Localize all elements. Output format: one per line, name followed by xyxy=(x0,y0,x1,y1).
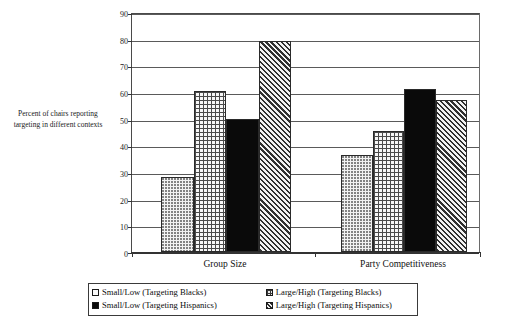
y-tick-label: 0 xyxy=(124,250,128,259)
legend-label: Large/High (Targeting Blacks) xyxy=(276,286,382,299)
legend: Small/Low (Targeting Blacks) Large/High … xyxy=(88,283,418,316)
y-tick-label: 10 xyxy=(120,223,128,232)
y-tick-label: 30 xyxy=(120,170,128,179)
y-tick-mark xyxy=(128,147,132,148)
y-tick-mark xyxy=(128,14,132,15)
legend-item-large-high-blacks[interactable]: Large/High (Targeting Blacks) xyxy=(266,286,414,299)
legend-item-small-low-hispanics[interactable]: Small/Low (Targeting Hispanics) xyxy=(92,299,266,312)
y-tick-label: 40 xyxy=(120,143,128,152)
bar-1-1 xyxy=(161,177,194,252)
y-tick-mark xyxy=(128,94,132,95)
gridline-0 xyxy=(132,253,479,254)
x-tick-mark-1 xyxy=(315,252,316,257)
legend-item-small-low-blacks[interactable]: Small/Low (Targeting Blacks) xyxy=(92,286,266,299)
gridline-70 xyxy=(132,67,479,68)
legend-label: Small/Low (Targeting Blacks) xyxy=(102,286,206,299)
x-axis-line xyxy=(131,252,481,253)
legend-item-large-high-hispanics[interactable]: Large/High (Targeting Hispanics) xyxy=(266,299,414,312)
bar-2-1 xyxy=(341,155,373,252)
legend-label: Small/Low (Targeting Hispanics) xyxy=(102,299,217,312)
bar-1-3 xyxy=(226,119,259,252)
bar-2-4 xyxy=(436,100,468,252)
bar-2-2 xyxy=(373,131,405,252)
x-category-label-1: Group Size xyxy=(203,259,246,269)
legend-swatch-solid-icon xyxy=(92,302,99,309)
y-tick-label: 90 xyxy=(120,10,128,19)
y-tick-mark xyxy=(128,174,132,175)
y-tick-mark xyxy=(128,41,132,42)
legend-label: Large/High (Targeting Hispanics) xyxy=(276,299,392,312)
gridline-90 xyxy=(132,14,479,15)
legend-swatch-diagonal-icon xyxy=(266,302,273,309)
plot-inner: 0102030405060708090 xyxy=(132,14,479,252)
legend-swatch-grid-icon xyxy=(266,289,273,296)
x-category-label-2: Party Competitiveness xyxy=(360,259,446,269)
y-tick-mark xyxy=(128,227,132,228)
y-tick-label: 70 xyxy=(120,63,128,72)
gridline-80 xyxy=(132,41,479,42)
y-axis-title: Percent of chairs reporting targeting in… xyxy=(6,108,110,130)
plot-area: 0102030405060708090 xyxy=(131,13,480,253)
y-tick-mark xyxy=(128,121,132,122)
y-tick-label: 50 xyxy=(120,116,128,125)
legend-row: Small/Low (Targeting Blacks) Large/High … xyxy=(92,286,414,299)
y-tick-mark xyxy=(128,67,132,68)
y-tick-label: 60 xyxy=(120,90,128,99)
bar-1-4 xyxy=(259,41,292,252)
legend-swatch-dots-icon xyxy=(92,289,99,296)
legend-row: Small/Low (Targeting Hispanics) Large/Hi… xyxy=(92,299,414,312)
x-tick-mark-2 xyxy=(480,252,481,257)
bar-2-3 xyxy=(404,89,436,252)
x-tick-mark-0 xyxy=(132,252,133,257)
y-tick-label: 20 xyxy=(120,196,128,205)
bar-1-2 xyxy=(194,91,227,252)
y-tick-label: 80 xyxy=(120,36,128,45)
y-tick-mark xyxy=(128,201,132,202)
